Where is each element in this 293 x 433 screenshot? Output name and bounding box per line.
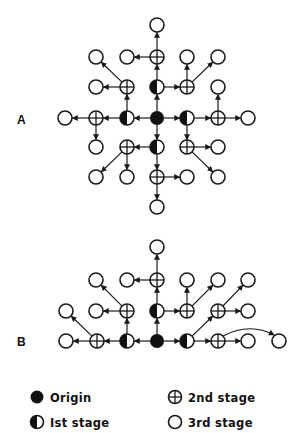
first-stage-node (180, 334, 194, 348)
first-stage-node (150, 140, 164, 154)
panel-a: A (17, 18, 255, 214)
origin-icon (31, 391, 44, 404)
first-stage-node (120, 111, 134, 125)
origin-node (150, 111, 164, 125)
panel-b-nodes (59, 240, 286, 348)
third-stage-node (211, 80, 225, 94)
third-stage-node (272, 334, 286, 348)
panel-b: B (17, 240, 286, 349)
second-stage-icon (169, 391, 182, 404)
third-stage-node (180, 50, 194, 64)
third-stage-node (120, 170, 134, 184)
first-stage-node (31, 416, 44, 429)
second-stage-node (150, 50, 164, 64)
first-stage-node (120, 334, 134, 348)
legend-label-third-stage: 3rd stage (188, 416, 253, 430)
third-stage-node (211, 273, 225, 287)
edge-arrow (192, 316, 213, 336)
second-stage-node (120, 140, 134, 154)
edge-arrow (101, 62, 122, 82)
third-stage-node (241, 304, 255, 318)
third-stage-node (89, 170, 103, 184)
third-stage-node (150, 200, 164, 214)
third-stage-node (89, 80, 103, 94)
third-stage-node (89, 140, 103, 154)
panel-b-edges (71, 255, 274, 342)
third-stage-node (180, 170, 194, 184)
third-stage-node (211, 50, 225, 64)
legend-item-second-stage: 2nd stage (169, 391, 256, 405)
third-stage-node (59, 334, 73, 348)
second-stage-node (150, 170, 164, 184)
origin-node (31, 391, 44, 404)
third-stage-node (150, 18, 164, 32)
third-stage-node (180, 273, 194, 287)
third-stage-node (120, 50, 134, 64)
third-stage-node (89, 304, 103, 318)
first-stage-node (150, 304, 164, 318)
third-stage-node (241, 111, 255, 125)
propagation-diagram: A B Origin Ist stage 2nd stage 3rd stage (0, 0, 293, 433)
first-stage-icon (31, 416, 44, 429)
legend-label-origin: Origin (50, 391, 92, 405)
second-stage-node (180, 304, 194, 318)
legend-item-first-stage: Ist stage (31, 416, 110, 430)
second-stage-node (180, 80, 194, 94)
second-stage-node (89, 111, 103, 125)
third-stage-node (58, 111, 72, 125)
edge-arrow (101, 152, 122, 172)
third-stage-node (59, 304, 73, 318)
third-stage-node (89, 50, 103, 64)
second-stage-node (120, 80, 134, 94)
second-stage-node (211, 334, 225, 348)
third-stage-node (169, 416, 182, 429)
third-stage-node (211, 140, 225, 154)
second-stage-node (150, 273, 164, 287)
second-stage-node (169, 391, 182, 404)
legend-label-second-stage: 2nd stage (188, 391, 255, 405)
third-stage-node (89, 273, 103, 287)
third-stage-node (241, 334, 255, 348)
edge-arrow (223, 285, 243, 306)
second-stage-node (211, 111, 225, 125)
legend: Origin Ist stage 2nd stage 3rd stage (31, 391, 256, 430)
panel-b-label: B (17, 335, 26, 349)
third-stage-icon (169, 416, 182, 429)
second-stage-node (211, 304, 225, 318)
edge-arrow (101, 285, 122, 306)
edge-arrow (192, 62, 213, 82)
legend-item-third-stage: 3rd stage (169, 416, 253, 430)
first-stage-node (180, 111, 194, 125)
edge-arrow (71, 316, 92, 336)
origin-node (150, 334, 164, 348)
third-stage-node (120, 273, 134, 287)
third-stage-node (150, 240, 164, 254)
edge-arrow (192, 285, 213, 306)
second-stage-node (90, 334, 104, 348)
panel-a-label: A (17, 113, 26, 127)
edge-arrow (192, 152, 213, 172)
second-stage-node (180, 140, 194, 154)
second-stage-node (120, 304, 134, 318)
third-stage-node (241, 273, 255, 287)
legend-label-first-stage: Ist stage (50, 416, 109, 430)
third-stage-node (211, 170, 225, 184)
legend-item-origin: Origin (31, 391, 92, 405)
first-stage-node (150, 80, 164, 94)
